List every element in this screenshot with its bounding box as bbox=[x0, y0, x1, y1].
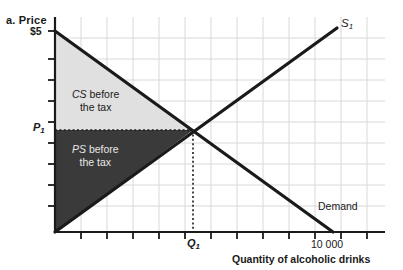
producer-surplus-annotation-line2: the tax bbox=[72, 156, 119, 169]
equilibrium-price-subscript: 1 bbox=[40, 126, 44, 135]
equilibrium-price-label: P1 bbox=[33, 121, 45, 135]
producer-surplus-abbrev: PS bbox=[72, 143, 86, 155]
demand-curve-label: Demand bbox=[318, 200, 358, 212]
equilibrium-quantity-letter: Q bbox=[187, 237, 196, 249]
consumer-surplus-annotation-line1: CS before bbox=[72, 88, 119, 101]
producer-surplus-annotation: PS before the tax bbox=[72, 143, 119, 169]
supply-curve-label: S1 bbox=[341, 17, 353, 31]
producer-surplus-annotation-rest: before bbox=[86, 143, 119, 155]
supply-curve-letter: S bbox=[341, 17, 349, 29]
y-axis-tick-label-top: $5 bbox=[30, 25, 42, 37]
economics-surplus-chart: a. Price $5 P1 Q1 10 000 Quantity of alc… bbox=[0, 0, 403, 270]
consumer-surplus-annotation-line2: the tax bbox=[72, 101, 119, 114]
producer-surplus-annotation-line1: PS before bbox=[72, 143, 119, 156]
x-axis-tick-label: 10 000 bbox=[311, 238, 343, 250]
equilibrium-quantity-subscript: 1 bbox=[196, 242, 200, 251]
equilibrium-quantity-label: Q1 bbox=[187, 237, 200, 251]
supply-curve-subscript: 1 bbox=[349, 22, 353, 31]
consumer-surplus-abbrev: CS bbox=[72, 88, 87, 100]
consumer-surplus-annotation: CS before the tax bbox=[72, 88, 119, 114]
consumer-surplus-annotation-rest: before bbox=[87, 88, 120, 100]
chart-canvas bbox=[0, 0, 403, 270]
x-axis-title: Quantity of alcoholic drinks bbox=[232, 253, 370, 265]
